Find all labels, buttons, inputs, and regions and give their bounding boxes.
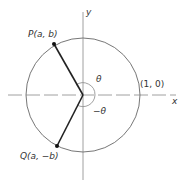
point-p bbox=[52, 42, 56, 46]
x-axis-label: x bbox=[171, 96, 178, 106]
segment-oq bbox=[57, 95, 83, 146]
theta-label: θ bbox=[96, 74, 102, 84]
point-q-label: Q(a, −b) bbox=[20, 151, 59, 161]
point-q bbox=[55, 144, 59, 148]
point-p-label: P(a, b) bbox=[28, 29, 57, 39]
unit-point-label: (1, 0) bbox=[140, 79, 164, 89]
unit-circle-diagram: y x P(a, b) Q(a, −b) (1, 0) θ −θ bbox=[0, 0, 187, 182]
y-axis-label: y bbox=[85, 7, 92, 17]
neg-theta-label: −θ bbox=[93, 106, 107, 116]
segment-op bbox=[54, 44, 83, 95]
